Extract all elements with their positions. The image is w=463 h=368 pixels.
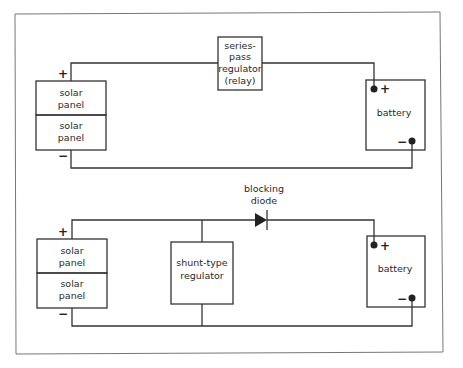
wire-bottom: [71, 142, 412, 168]
regulator-label: (relay): [224, 75, 255, 86]
panel-plus-sign: +: [58, 67, 68, 81]
wire-top-left: [71, 63, 218, 81]
battery-plus-sign: +: [380, 239, 390, 253]
solar-panel-label: solar: [60, 278, 83, 289]
panel-plus-sign: +: [58, 225, 68, 239]
diode-label: blocking: [244, 183, 284, 194]
solar-charge-regulator-diagram: + − + − solar panel solar panel series- …: [0, 0, 463, 368]
terminal-dot-icon: [371, 242, 378, 249]
battery-minus-sign: −: [397, 135, 407, 149]
regulator-label: pass: [229, 51, 251, 62]
regulator-label: series-: [224, 40, 256, 51]
panel-minus-sign: −: [58, 149, 68, 163]
wire-top-right: [262, 63, 374, 88]
wire-top-right: [267, 220, 374, 245]
solar-panel-label: solar: [60, 245, 83, 256]
solar-panel-label: solar: [59, 120, 82, 131]
terminal-dot-icon: [409, 138, 416, 145]
terminal-dot-icon: [371, 86, 378, 93]
wire-top-left: [72, 220, 255, 239]
terminal-dot-icon: [409, 295, 416, 302]
regulator-label: regulator: [218, 63, 262, 74]
regulator-label: shunt-type: [176, 257, 228, 268]
battery-label: battery: [377, 107, 412, 118]
diode-icon: [255, 213, 267, 227]
solar-panel-label: solar: [59, 87, 82, 98]
battery-label: battery: [378, 263, 413, 274]
solar-panel-label: panel: [58, 99, 84, 110]
wire-bottom: [72, 298, 412, 326]
bottom-circuit: [37, 210, 425, 326]
solar-panel-label: panel: [59, 290, 85, 301]
diode-label: diode: [251, 195, 278, 206]
battery-plus-sign: +: [380, 82, 390, 96]
solar-panel-label: panel: [58, 132, 84, 143]
solar-panel-label: panel: [59, 257, 85, 268]
regulator-label: regulator: [180, 270, 224, 281]
panel-minus-sign: −: [58, 307, 68, 321]
battery-minus-sign: −: [397, 292, 407, 306]
